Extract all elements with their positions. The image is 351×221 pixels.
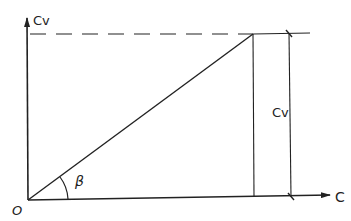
- dimension-label: Cv: [272, 105, 289, 120]
- level-line-extension: [253, 33, 310, 34]
- x-axis: [28, 195, 330, 200]
- vertical-drop-line: [253, 34, 254, 197]
- origin-label: O: [12, 203, 22, 218]
- angle-arc: [60, 177, 68, 199]
- diagonal-line: [28, 34, 253, 200]
- x-axis-label: C: [335, 189, 345, 205]
- y-axis-label: Cv: [33, 13, 50, 28]
- diagram-canvas: Cv C O β Cv: [0, 0, 351, 221]
- angle-label: β: [74, 173, 84, 189]
- y-axis: [27, 18, 28, 200]
- dimension-line: [289, 33, 291, 197]
